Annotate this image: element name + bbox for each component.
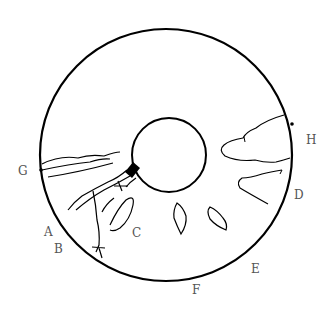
lesion-d — [238, 170, 282, 204]
label-b: B — [54, 242, 63, 256]
label-a: A — [44, 225, 53, 239]
label-d: D — [294, 188, 304, 202]
label-e: E — [251, 262, 260, 276]
optic-disc — [132, 118, 206, 192]
label-c: C — [132, 226, 141, 240]
label-g: G — [18, 164, 28, 178]
lesion-g — [42, 152, 120, 164]
lesion-h — [221, 115, 290, 162]
fundus-diagram — [0, 0, 335, 314]
outer-circle — [40, 29, 292, 281]
vessel — [68, 170, 127, 210]
lesion-center-2 — [208, 207, 227, 230]
lesion-center-1 — [174, 203, 186, 234]
lesion-c — [110, 198, 133, 231]
label-h: H — [306, 133, 316, 147]
label-f: F — [192, 283, 200, 297]
